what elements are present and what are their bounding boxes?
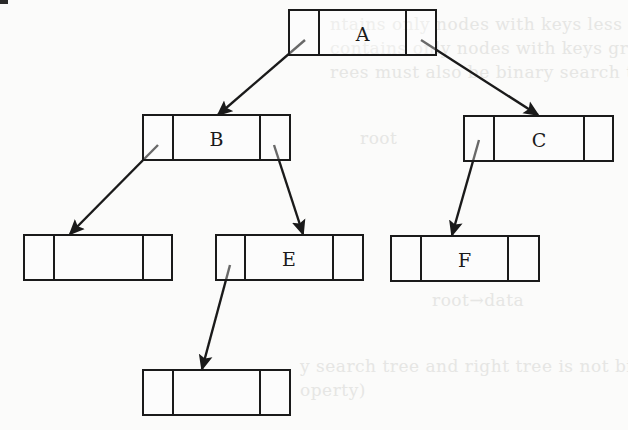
node-box	[24, 235, 172, 280]
tree-node-d	[24, 235, 172, 280]
tree-node-a: A	[289, 10, 436, 55]
tree-node-f: F	[391, 236, 539, 281]
edges-layer	[70, 40, 538, 369]
node-data-label: A	[355, 23, 370, 45]
tree-node-g	[143, 370, 290, 415]
node-data-label: C	[532, 129, 547, 151]
arrow-a-to-c	[421, 40, 538, 115]
tree-node-b: B	[143, 115, 290, 160]
node-box	[143, 370, 290, 415]
tree-node-c: C	[464, 116, 613, 161]
nodes-layer: ABCEF	[24, 10, 613, 415]
binary-tree-diagram: ABCEF	[0, 0, 628, 430]
scanned-page: ntains only nodes with keys less than th…	[0, 0, 628, 430]
node-data-label: F	[458, 249, 471, 271]
node-data-label: E	[282, 248, 296, 270]
tree-node-e: E	[216, 235, 363, 280]
node-data-label: B	[210, 128, 224, 150]
